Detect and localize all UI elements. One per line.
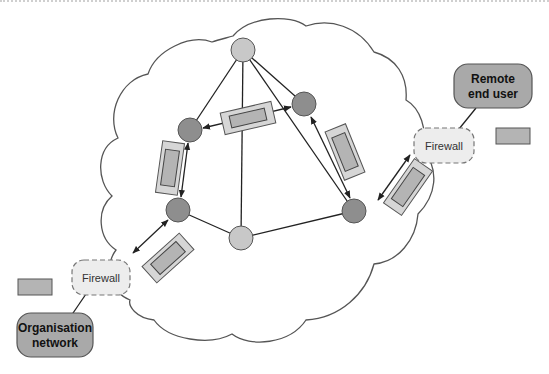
router-node-upper-left — [178, 118, 202, 142]
firewall-org: Firewall — [72, 260, 130, 295]
router-node-top — [231, 38, 255, 62]
router-node-lower-right — [342, 199, 366, 223]
remote-line1: Remote — [471, 72, 515, 86]
org-line2: network — [32, 336, 78, 350]
network-diagram: Firewall Firewall Remote end user Organi… — [0, 0, 549, 374]
org-line1: Organisation — [18, 321, 92, 335]
organisation-network: Organisation network — [17, 313, 93, 357]
remote-end-user: Remote end user — [454, 64, 532, 108]
firewall-org-label: Firewall — [82, 272, 120, 284]
firewall-remote-label: Firewall — [425, 140, 463, 152]
router-node-upper-right — [292, 92, 316, 116]
remote-line2: end user — [468, 87, 518, 101]
packet-legend-left — [18, 279, 52, 295]
internet-cloud — [101, 19, 434, 342]
router-node-lower-left — [166, 198, 190, 222]
firewall-remote: Firewall — [414, 128, 474, 163]
packet-legend-right — [496, 128, 530, 144]
router-node-bottom — [229, 226, 253, 250]
